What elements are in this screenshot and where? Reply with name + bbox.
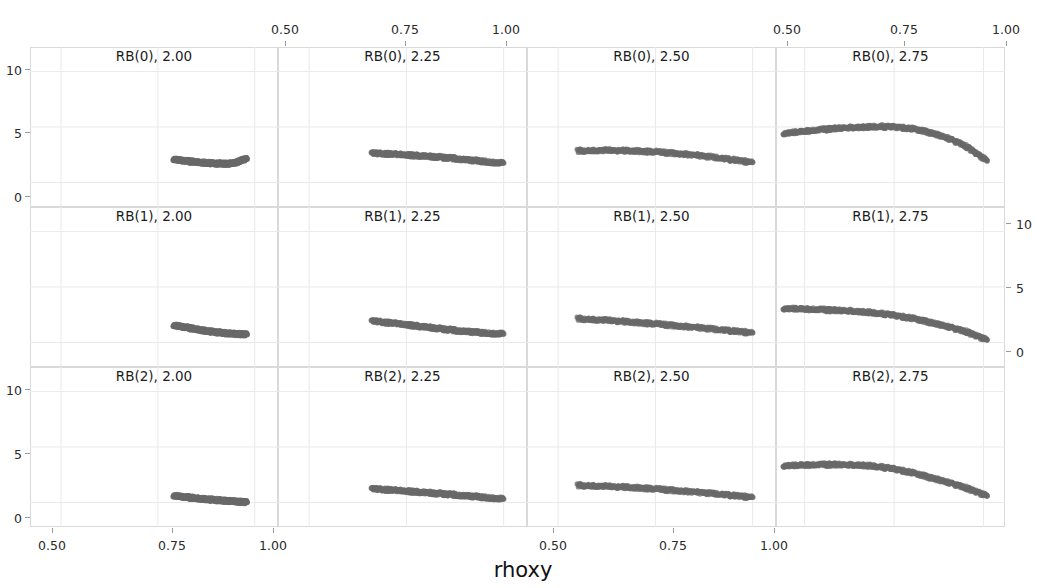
x-tick-top-col4-0.75: 0.75 bbox=[884, 22, 924, 37]
facet-grid: RB(0), 2.00 RB(0), 2.25 RB(0), 2.50 RB(0… bbox=[30, 47, 1005, 527]
x-tickmark-bottom-col3-2 bbox=[774, 528, 775, 533]
panel-rb0-2.25[interactable]: RB(0), 2.25 bbox=[278, 47, 527, 207]
panel-rb1-2.75[interactable]: RB(1), 2.75 bbox=[776, 207, 1005, 367]
panel-rb2-2.50[interactable]: RB(2), 2.50 bbox=[527, 367, 776, 527]
x-tickmark-top-col4-2 bbox=[1006, 41, 1007, 46]
scatter-points-rb0-2.50 bbox=[527, 47, 776, 207]
x-tick-bottom-col1-0.75: 0.75 bbox=[152, 538, 192, 553]
scatter-points-rb2-2.25 bbox=[278, 367, 527, 527]
y-tickmark-right-row2-2 bbox=[1006, 351, 1011, 352]
x-tickmark-top-col2-0 bbox=[285, 41, 286, 46]
panel-rb0-2.50[interactable]: RB(0), 2.50 bbox=[527, 47, 776, 207]
panel-rb1-2.25[interactable]: RB(1), 2.25 bbox=[278, 207, 527, 367]
scatter-points-rb0-2.00 bbox=[30, 47, 278, 207]
scatter-points-rb1-2.25 bbox=[278, 207, 527, 367]
panel-rb2-2.25[interactable]: RB(2), 2.25 bbox=[278, 367, 527, 527]
x-tickmark-bottom-col1-0 bbox=[52, 528, 53, 533]
x-tickmark-top-col4-1 bbox=[904, 41, 905, 46]
x-tickmark-top-col4-0 bbox=[787, 41, 788, 46]
y-tickmark-right-row2-1 bbox=[1006, 287, 1011, 288]
scatter-points-rb1-2.50 bbox=[527, 207, 776, 367]
scatter-points-rb1-2.00 bbox=[30, 207, 278, 367]
scatter-points-rb0-2.75 bbox=[776, 47, 1005, 207]
x-tick-bottom-col3-0.75: 0.75 bbox=[653, 538, 693, 553]
x-tick-bottom-col1-1.00: 1.00 bbox=[253, 538, 293, 553]
panel-rb2-2.00[interactable]: RB(2), 2.00 bbox=[30, 367, 278, 527]
y-tick-left-row3-0: 0 bbox=[0, 511, 22, 526]
scatter-points-rb2-2.50 bbox=[527, 367, 776, 527]
figure-canvas: 0.50 0.75 1.00 0.50 0.75 1.00 0.50 0.75 … bbox=[0, 0, 1046, 588]
x-tick-top-col4-1.00: 1.00 bbox=[986, 22, 1026, 37]
x-axis-title: rhoxy bbox=[0, 558, 1046, 582]
y-tick-left-row1-10: 10 bbox=[0, 63, 22, 78]
x-tickmark-top-col2-1 bbox=[405, 41, 406, 46]
y-tick-left-row1-0: 0 bbox=[0, 190, 22, 205]
figure-title bbox=[0, 0, 1046, 9]
scatter-points-rb0-2.25 bbox=[278, 47, 527, 207]
scatter-points-rb2-2.75 bbox=[776, 367, 1005, 527]
x-tickmark-top-col2-2 bbox=[506, 41, 507, 46]
x-tick-bottom-col3-0.50: 0.50 bbox=[533, 538, 573, 553]
scatter-points-rb2-2.00 bbox=[30, 367, 278, 527]
x-tickmark-bottom-col1-1 bbox=[172, 528, 173, 533]
y-tick-left-row3-5: 5 bbox=[0, 447, 22, 462]
y-tick-right-row2-0: 0 bbox=[1016, 345, 1042, 360]
panel-rb1-2.50[interactable]: RB(1), 2.50 bbox=[527, 207, 776, 367]
x-tick-bottom-col1-0.50: 0.50 bbox=[32, 538, 72, 553]
y-tick-left-row1-5: 5 bbox=[0, 126, 22, 141]
y-tickmark-right-row2-0 bbox=[1006, 223, 1011, 224]
panel-rb0-2.75[interactable]: RB(0), 2.75 bbox=[776, 47, 1005, 207]
y-tick-left-row3-10: 10 bbox=[0, 383, 22, 398]
panel-rb2-2.75[interactable]: RB(2), 2.75 bbox=[776, 367, 1005, 527]
scatter-points-rb1-2.75 bbox=[776, 207, 1005, 367]
y-tick-right-row2-10: 10 bbox=[1016, 217, 1042, 232]
x-tick-top-col4-0.50: 0.50 bbox=[767, 22, 807, 37]
x-tickmark-bottom-col3-1 bbox=[673, 528, 674, 533]
x-tick-top-col2-0.75: 0.75 bbox=[385, 22, 425, 37]
x-tick-top-col2-1.00: 1.00 bbox=[486, 22, 526, 37]
x-tick-bottom-col3-1.00: 1.00 bbox=[754, 538, 794, 553]
y-tick-right-row2-5: 5 bbox=[1016, 281, 1042, 296]
panel-rb0-2.00[interactable]: RB(0), 2.00 bbox=[30, 47, 278, 207]
x-tickmark-bottom-col3-0 bbox=[553, 528, 554, 533]
panel-rb1-2.00[interactable]: RB(1), 2.00 bbox=[30, 207, 278, 367]
x-tickmark-bottom-col1-2 bbox=[273, 528, 274, 533]
x-tick-top-col2-0.50: 0.50 bbox=[265, 22, 305, 37]
